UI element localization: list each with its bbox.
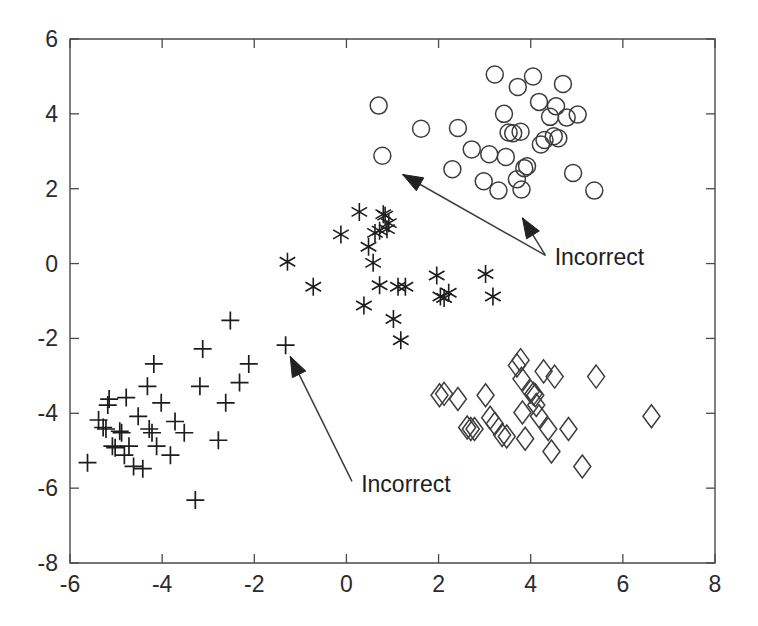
point-plus-6 bbox=[103, 437, 121, 455]
point-star-3 bbox=[352, 203, 368, 221]
y-tick-label-2: -4 bbox=[38, 400, 59, 426]
point-plus-23 bbox=[166, 413, 184, 431]
point-plus-12 bbox=[120, 437, 138, 455]
point-star-14 bbox=[390, 278, 406, 296]
point-plus-10 bbox=[115, 446, 133, 464]
point-plus-22 bbox=[161, 446, 179, 464]
x-tick-label-0: -6 bbox=[60, 571, 80, 597]
point-circle-5 bbox=[475, 173, 492, 190]
point-circle-1 bbox=[413, 120, 430, 137]
point-star-22 bbox=[478, 265, 494, 283]
point-circle-20 bbox=[531, 93, 548, 110]
series-plus-cluster bbox=[79, 311, 295, 509]
point-diamond-26 bbox=[574, 455, 591, 478]
point-diamond-25 bbox=[560, 418, 577, 441]
point-circle-27 bbox=[554, 75, 571, 92]
point-diamond-23 bbox=[543, 440, 560, 463]
point-circle-14 bbox=[509, 78, 526, 95]
point-plus-14 bbox=[129, 407, 147, 425]
annotation-label: Incorrect bbox=[361, 471, 451, 497]
point-circle-10 bbox=[497, 148, 514, 165]
point-star-12 bbox=[372, 276, 388, 294]
point-circle-7 bbox=[486, 66, 503, 83]
x-tick-label-3: 0 bbox=[340, 571, 353, 597]
series-diamond-cluster bbox=[431, 349, 660, 478]
annotation-arrow-line-0 bbox=[403, 174, 546, 255]
point-plus-8 bbox=[111, 422, 129, 440]
point-star-18 bbox=[429, 267, 445, 285]
annotation-label: Incorrect bbox=[555, 244, 645, 270]
point-plus-16 bbox=[138, 377, 156, 395]
series-circle-cluster bbox=[370, 66, 603, 199]
point-circle-4 bbox=[463, 141, 480, 158]
annotation-arrow-head-1 bbox=[522, 218, 539, 239]
point-circle-9 bbox=[495, 105, 512, 122]
point-circle-16 bbox=[513, 181, 530, 198]
point-plus-2 bbox=[94, 419, 112, 437]
point-plus-11 bbox=[117, 389, 135, 407]
point-plus-18 bbox=[143, 424, 161, 442]
annotation-incorrect-lower: Incorrect bbox=[290, 356, 451, 496]
point-plus-28 bbox=[209, 431, 227, 449]
point-star-15 bbox=[398, 278, 414, 296]
point-plus-21 bbox=[152, 394, 170, 412]
point-plus-30 bbox=[221, 311, 239, 329]
point-star-23 bbox=[485, 288, 501, 306]
point-diamond-20 bbox=[531, 405, 548, 428]
point-star-17 bbox=[393, 331, 409, 349]
point-plus-13 bbox=[125, 457, 143, 475]
x-tick-label-2: -2 bbox=[244, 571, 264, 597]
x-tick-label-5: 4 bbox=[524, 571, 537, 597]
point-diamond-28 bbox=[643, 405, 660, 428]
point-circle-3 bbox=[449, 120, 466, 137]
y-tick-label-6: 4 bbox=[45, 101, 58, 127]
point-plus-29 bbox=[217, 394, 235, 412]
point-diamond-22 bbox=[540, 418, 557, 441]
point-plus-19 bbox=[145, 355, 163, 373]
point-plus-31 bbox=[231, 374, 249, 392]
point-circle-32 bbox=[374, 147, 391, 164]
point-star-13 bbox=[356, 296, 372, 314]
point-star-0 bbox=[280, 253, 296, 271]
point-diamond-15 bbox=[517, 427, 534, 450]
point-plus-32 bbox=[240, 355, 258, 373]
point-plus-26 bbox=[191, 377, 209, 395]
scatter-plot-figure: -6-4-202468-8-6-4-20246IncorrectIncorrec… bbox=[0, 0, 758, 626]
point-circle-2 bbox=[444, 161, 461, 178]
point-plus-27 bbox=[194, 340, 212, 358]
point-plus-3 bbox=[97, 420, 115, 438]
point-star-2 bbox=[333, 225, 349, 243]
point-circle-28 bbox=[558, 109, 575, 126]
point-plus-33 bbox=[277, 336, 295, 354]
point-circle-0 bbox=[370, 97, 387, 114]
point-circle-6 bbox=[481, 146, 498, 163]
point-plus-20 bbox=[148, 437, 166, 455]
y-tick-label-4: 0 bbox=[45, 251, 58, 277]
point-star-1 bbox=[305, 278, 321, 296]
point-plus-15 bbox=[134, 460, 152, 478]
point-diamond-6 bbox=[477, 384, 494, 407]
x-tick-label-4: 2 bbox=[432, 571, 445, 597]
point-star-5 bbox=[365, 254, 381, 272]
point-plus-25 bbox=[186, 491, 204, 509]
point-plus-0 bbox=[79, 454, 97, 472]
point-circle-29 bbox=[565, 164, 582, 181]
point-plus-17 bbox=[140, 420, 158, 438]
x-tick-label-6: 6 bbox=[616, 571, 629, 597]
point-circle-31 bbox=[586, 182, 603, 199]
point-circle-19 bbox=[525, 68, 542, 85]
point-circle-21 bbox=[532, 136, 549, 153]
series-star-cluster bbox=[280, 203, 501, 349]
y-tick-label-3: -2 bbox=[38, 325, 58, 351]
y-tick-label-7: 6 bbox=[45, 26, 58, 52]
point-star-4 bbox=[361, 238, 377, 256]
annotation-incorrect-upper: Incorrect bbox=[403, 174, 645, 270]
annotation-arrow-head-0 bbox=[403, 174, 424, 190]
point-circle-30 bbox=[569, 106, 586, 123]
plot-canvas: -6-4-202468-8-6-4-20246IncorrectIncorrec… bbox=[0, 0, 758, 626]
point-circle-23 bbox=[542, 108, 559, 125]
point-plus-24 bbox=[175, 424, 193, 442]
point-diamond-2 bbox=[449, 388, 466, 411]
point-circle-25 bbox=[548, 98, 565, 115]
x-tick-label-1: -4 bbox=[152, 571, 173, 597]
